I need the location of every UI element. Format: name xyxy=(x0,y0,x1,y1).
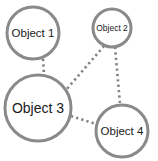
network-diagram: Object 1 Object 2 Object 3 Object 4 xyxy=(0,0,158,161)
node-object-2: Object 2 xyxy=(93,9,131,47)
node-label: Object 3 xyxy=(12,100,64,116)
node-label: Object 4 xyxy=(101,125,144,137)
edge-object2-object3 xyxy=(66,46,104,90)
node-label: Object 2 xyxy=(96,23,128,33)
node-label: Object 1 xyxy=(12,27,55,39)
node-object-1: Object 1 xyxy=(7,7,59,59)
edge-object2-object4 xyxy=(115,47,120,104)
edge-object1-object3 xyxy=(43,59,44,74)
node-object-3: Object 3 xyxy=(5,75,71,141)
node-object-4: Object 4 xyxy=(96,105,148,157)
edge-object3-object4 xyxy=(71,116,96,124)
nodes-layer: Object 1 Object 2 Object 3 Object 4 xyxy=(5,7,148,157)
